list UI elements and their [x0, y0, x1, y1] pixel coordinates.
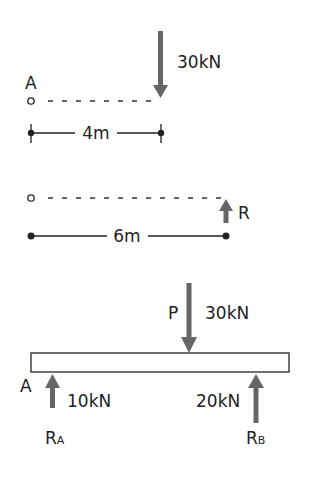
reaction-a-value: 10kN: [67, 391, 111, 411]
load-label: 30kN: [177, 52, 221, 72]
load-value: 30kN: [205, 303, 249, 323]
beam: [31, 353, 289, 372]
pivot-icon: [28, 195, 34, 201]
reaction-a-name: RA: [45, 428, 65, 448]
dimension-label: 4m: [82, 123, 109, 143]
reaction-b-name: RB: [246, 428, 265, 448]
load-arrow-down-icon: [153, 31, 168, 98]
panel-beam: P 30kN A 10kN RA 20kN RB: [20, 283, 289, 448]
reaction-a-arrow-up-icon: [45, 374, 60, 408]
reaction-arrow-up-icon: [219, 199, 233, 223]
point-a-label: A: [25, 73, 37, 93]
reaction-b-arrow-up-icon: [248, 374, 264, 423]
pivot-a-icon: [28, 98, 34, 104]
dimension-label: 6m: [113, 226, 140, 246]
panel-moment-6m: R 6m: [28, 195, 251, 246]
point-a-label: A: [20, 376, 32, 396]
load-name: P: [168, 303, 178, 323]
reaction-b-value: 20kN: [196, 391, 240, 411]
reaction-label: R: [238, 203, 250, 223]
beam-diagram: A 30kN 4m R: [0, 0, 316, 487]
panel-moment-4m: A 30kN 4m: [25, 31, 221, 143]
load-p-arrow-down-icon: [181, 283, 197, 353]
